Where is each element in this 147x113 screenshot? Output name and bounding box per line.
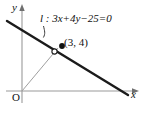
leader-line — [43, 26, 44, 38]
line-l — [7, 21, 128, 95]
origin-label: O — [12, 92, 20, 103]
perpendicular-segment — [22, 48, 58, 91]
y-axis-label: y — [12, 2, 17, 13]
y-axis-arrow-icon — [19, 4, 24, 11]
line-equation-label: l : 3x+4y−25=0 — [40, 13, 112, 24]
geometry-figure: l : 3x+4y−25=0 (3, 4) y x O — [0, 0, 147, 113]
right-angle-marker-icon — [52, 49, 57, 54]
point-label: (3, 4) — [64, 37, 88, 48]
x-axis-label: x — [131, 89, 136, 100]
